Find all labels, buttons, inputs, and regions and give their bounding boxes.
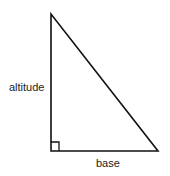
triangle [51,14,158,151]
right-angle-marker [51,142,59,151]
altitude-label: altitude [9,82,44,93]
base-label: base [96,158,120,169]
